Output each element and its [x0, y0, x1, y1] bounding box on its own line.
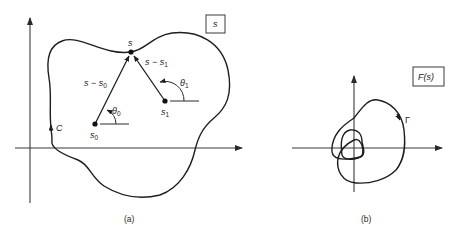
point-s — [128, 49, 133, 54]
contour-c-label: C — [56, 123, 63, 133]
s-plane-label: s — [213, 19, 218, 29]
contour-gamma-label: Γ — [405, 115, 410, 125]
caption-a: (a) — [124, 214, 135, 224]
angle-theta0-label: θ0 — [112, 106, 121, 117]
contour-gamma-inner-loop — [341, 130, 364, 159]
point-s0-label: s0 — [90, 130, 99, 141]
figure: C s s0 s1 s − s0 s − s1 θ0 θ1 s (a) — [0, 0, 454, 240]
vector-s-minus-s0-label: s − s0 — [84, 78, 107, 89]
caption-b: (b) — [361, 214, 372, 224]
contour-gamma — [332, 100, 405, 183]
panel-b: Γ F(s) (b) — [292, 67, 444, 224]
contour-c — [48, 33, 230, 198]
panel-a: C s s0 s1 s − s0 s − s1 θ0 θ1 s (a) — [15, 15, 242, 224]
point-s1 — [162, 98, 167, 103]
vector-s-minus-s1-label: s − s1 — [145, 57, 168, 68]
point-s0 — [92, 121, 97, 126]
angle-theta1-label: θ1 — [180, 78, 189, 89]
f-plane-label: F(s) — [418, 72, 434, 82]
point-s1-label: s1 — [161, 107, 170, 118]
point-s-label: s — [128, 38, 133, 48]
